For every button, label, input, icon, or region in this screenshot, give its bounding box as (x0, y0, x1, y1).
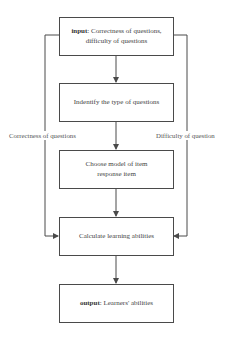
input-node: input: Correctness of questions, difficu… (59, 17, 174, 56)
output-node-text: output: Learners' abilities (80, 299, 153, 309)
right-branch-label: Difficulty of question (155, 131, 216, 140)
flowchart-canvas: input: Correctness of questions, difficu… (0, 0, 232, 339)
left-branch-label: Correctness of questions (8, 131, 77, 140)
identify-node-text: Indentify the type of questions (74, 98, 160, 108)
identify-node: Indentify the type of questions (59, 83, 174, 122)
choose-model-node: Choose model of item response item (59, 150, 174, 189)
output-node: output: Learners' abilities (59, 284, 174, 323)
calculate-node-text: Calculate learning abilities (79, 232, 154, 242)
input-node-text: input: Correctness of questions, difficu… (66, 27, 167, 46)
calculate-node: Calculate learning abilities (59, 217, 174, 256)
choose-model-node-text: Choose model of item response item (78, 160, 155, 179)
